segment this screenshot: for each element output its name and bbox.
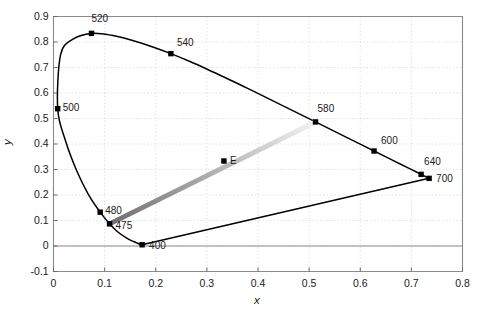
marker-640 [418,172,423,177]
x-tick-label: 0.8 [443,277,483,289]
marker-475 [107,221,112,226]
x-tick-label: 0.7 [391,277,431,289]
marker-E [221,158,226,163]
marker-400 [139,242,144,247]
marker-520 [89,31,94,36]
point-label-640: 640 [424,156,441,167]
x-tick-label: 0.4 [238,277,278,289]
x-tick-label: 0.2 [136,277,176,289]
point-label-500: 500 [63,102,80,113]
point-label-600: 600 [381,135,398,146]
y-tick-label: 0.2 [8,188,49,200]
marker-700 [426,176,431,181]
y-tick-label: 0.4 [8,137,49,149]
marker-500 [55,106,60,111]
chromaticity-diagram-figure: 00.10.20.30.40.50.60.70.8-0.100.10.20.30… [0,0,484,309]
x-tick-label: 0.1 [85,277,125,289]
marker-480 [97,209,102,214]
point-label-520: 520 [91,13,108,24]
x-tick-label: 0.3 [187,277,227,289]
y-tick-label: 0 [8,239,49,251]
y-tick-label: 0.9 [8,10,49,22]
x-tick-label: 0.5 [289,277,329,289]
marker-580 [313,119,318,124]
grid-lines [54,17,463,272]
x-axis-title: x [254,294,260,306]
point-label-400: 400 [149,240,166,251]
point-label-700: 700 [436,173,453,184]
marker-600 [371,148,376,153]
y-tick-label: 0.5 [8,112,49,124]
point-label-580: 580 [318,103,335,114]
y-tick-label: 0.6 [8,86,49,98]
y-tick-label: 0.1 [8,214,49,226]
x-tick-label: 0 [34,277,74,289]
marker-540 [168,51,173,56]
y-tick-label: 0.7 [8,61,49,73]
plot-canvas [0,0,484,309]
y-tick-label: -0.1 [8,265,49,277]
y-tick-label: 0.8 [8,35,49,47]
point-label-540: 540 [177,37,194,48]
x-tick-label: 0.6 [340,277,380,289]
y-tick-label: 0.3 [8,163,49,175]
point-label-475: 475 [116,220,133,231]
point-label-E: E [230,155,237,166]
point-label-480: 480 [105,205,122,216]
y-axis-title: y [1,139,13,145]
